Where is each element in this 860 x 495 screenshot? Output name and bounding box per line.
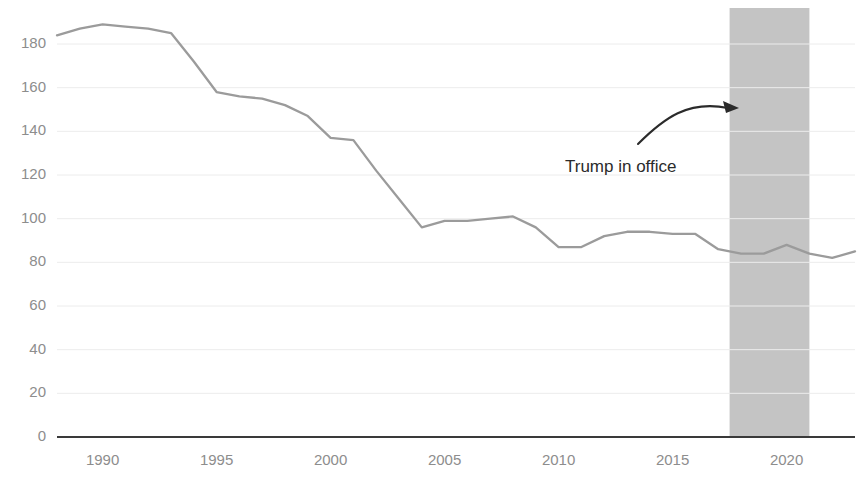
y-tick-label-40: 40 xyxy=(29,340,46,357)
x-tick-label-2020: 2020 xyxy=(770,451,803,468)
y-tick-label-140: 140 xyxy=(21,121,46,138)
line-chart: 020406080100120140160180 199019952000200… xyxy=(0,0,860,495)
annotation-label: Trump in office xyxy=(565,157,677,176)
x-tick-label-2015: 2015 xyxy=(656,451,689,468)
y-tick-label-60: 60 xyxy=(29,296,46,313)
y-tick-label-100: 100 xyxy=(21,209,46,226)
shaded-region-trump-in-office xyxy=(730,8,810,437)
y-tick-label-160: 160 xyxy=(21,78,46,95)
shaded-region-group xyxy=(730,8,810,437)
y-tick-label-20: 20 xyxy=(29,383,46,400)
x-tick-label-2010: 2010 xyxy=(542,451,575,468)
y-tick-label-0: 0 xyxy=(38,427,46,444)
x-tick-label-1990: 1990 xyxy=(86,451,119,468)
x-tick-label-2000: 2000 xyxy=(314,451,347,468)
x-tick-label-1995: 1995 xyxy=(200,451,233,468)
chart-container: 020406080100120140160180 199019952000200… xyxy=(0,0,860,495)
y-tick-label-180: 180 xyxy=(21,34,46,51)
y-tick-label-120: 120 xyxy=(21,165,46,182)
x-tick-label-2005: 2005 xyxy=(428,451,461,468)
y-tick-label-80: 80 xyxy=(29,252,46,269)
